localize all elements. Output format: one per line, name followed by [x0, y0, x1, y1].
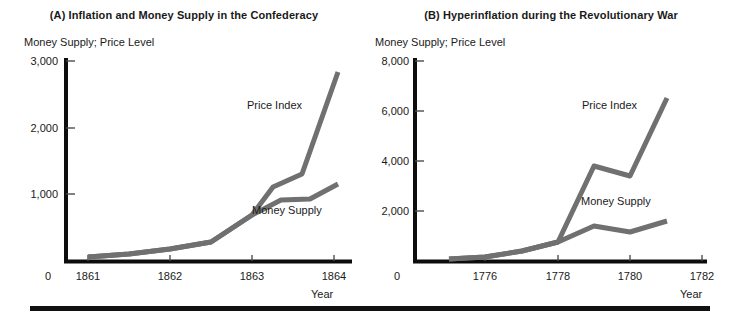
- chart-panel-a: (A) Inflation and Money Supply in the Co…: [0, 0, 368, 300]
- panel-b-ylabel-2000: 2,000: [367, 205, 409, 217]
- panel-a-ylabel-1000: 1,000: [6, 188, 58, 200]
- panel-b-plot: [367, 0, 735, 300]
- panel-a-xlabel-1863: 1863: [227, 270, 277, 282]
- panel-a-label-money-supply: Money Supply: [252, 204, 322, 216]
- panel-b-xlabel-1782: 1782: [677, 270, 727, 282]
- panel-b-label-price-index: Price Index: [582, 99, 637, 111]
- panel-b-origin-label: 0: [387, 270, 407, 282]
- panel-a-xlabel-1864: 1864: [309, 270, 359, 282]
- panel-b-xlabel-1776: 1776: [460, 270, 510, 282]
- panel-b-xlabel-1780: 1780: [605, 270, 655, 282]
- panel-b-ylabel-8000: 8,000: [367, 55, 409, 67]
- chart-panel-b: (B) Hyperinflation during the Revolution…: [367, 0, 735, 300]
- panel-b-x-axis-name: Year: [680, 288, 702, 300]
- panel-a-label-price-index: Price Index: [247, 99, 302, 111]
- figure-container: (A) Inflation and Money Supply in the Co…: [0, 0, 737, 318]
- panel-a-xlabel-1861: 1861: [63, 270, 113, 282]
- panel-a-ylabel-2000: 2,000: [6, 122, 58, 134]
- panel-b-ylabel-4000: 4,000: [367, 155, 409, 167]
- panel-a-xlabel-1862: 1862: [145, 270, 195, 282]
- panel-a-series-money-supply: [88, 184, 338, 257]
- panel-b-label-money-supply: Money Supply: [581, 195, 651, 207]
- panel-b-ylabel-6000: 6,000: [367, 105, 409, 117]
- panel-a-ylabel-3000: 3,000: [6, 55, 58, 67]
- panel-a-origin-label: 0: [38, 270, 58, 282]
- bottom-divider-rule: [30, 306, 710, 311]
- panel-b-xlabel-1778: 1778: [533, 270, 583, 282]
- panel-a-x-axis-name: Year: [311, 288, 333, 300]
- panel-a-plot: [0, 0, 368, 300]
- panel-b-series-price-index: [449, 98, 667, 259]
